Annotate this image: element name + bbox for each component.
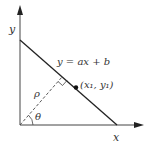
hough-line-diagram: y x y = ax + b (x₁, y₁) ρ θ <box>0 0 154 149</box>
rho-label: ρ <box>33 88 40 99</box>
y-axis-arrowhead <box>17 5 23 15</box>
x-axis-label: x <box>113 131 120 144</box>
right-angle-marker <box>58 81 67 86</box>
diagram-svg: y x y = ax + b (x₁, y₁) ρ θ <box>0 0 154 149</box>
point-x1-y1 <box>74 85 78 89</box>
point-label: (x₁, y₁) <box>80 79 114 90</box>
theta-angle-arc <box>29 115 33 125</box>
y-axis-label: y <box>8 23 16 36</box>
theta-label: θ <box>35 111 41 122</box>
line-equation-label: y = ax + b <box>56 56 110 67</box>
x-axis-arrowhead <box>134 122 144 128</box>
